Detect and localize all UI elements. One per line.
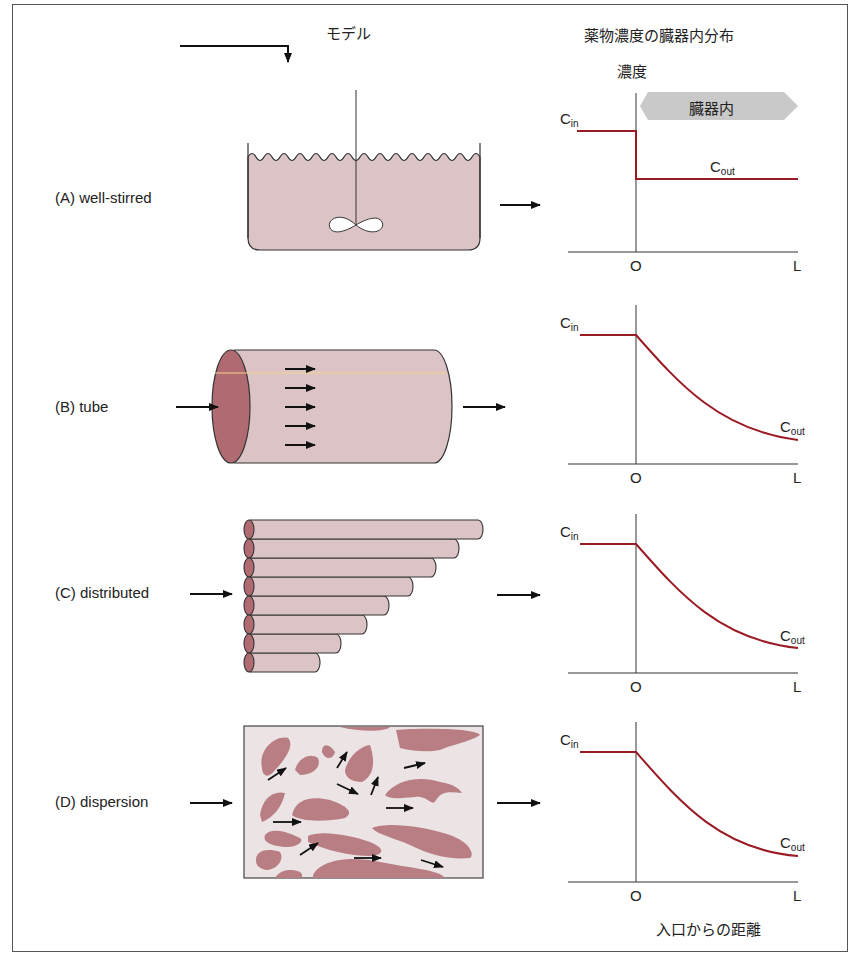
model-column-title: モデル [326,22,371,43]
organ-region-label: 臓器内 [689,97,734,118]
origin-label-b: O [630,469,642,486]
graph-a [568,92,798,252]
c-in-label-c: Cin [560,523,579,542]
end-label-a: L [793,257,801,274]
end-label-c: L [793,678,801,695]
c-in-label-d: Cin [560,731,579,750]
graph-c [568,514,798,673]
diagram-graphics [0,0,861,966]
distributed-model [190,520,540,672]
stirred-tank-model [180,46,540,250]
end-label-b: L [793,469,801,486]
c-out-label-c: Cout [780,627,805,646]
model-label-d: (D) dispersion [55,793,148,810]
origin-label-a: O [630,257,642,274]
c-out-label-d: Cout [780,834,805,853]
c-in-label-b: Cin [560,314,579,333]
graph-b [568,305,798,464]
x-axis-label: 入口からの距離 [656,918,761,939]
origin-label-d: O [630,887,642,904]
c-out-label-b: Cout [780,418,805,437]
graph-d [568,722,798,882]
model-label-b: (B) tube [55,398,108,415]
model-label-a: (A) well-stirred [55,189,152,206]
end-label-d: L [793,887,801,904]
c-in-label-a: Cin [560,110,579,129]
distribution-column-title: 薬物濃度の臓器内分布 [584,24,734,45]
model-label-c: (C) distributed [55,584,149,601]
y-axis-label: 濃度 [617,60,647,81]
dispersion-model [190,726,540,878]
origin-label-c: O [630,678,642,695]
c-out-label-a: Cout [710,158,735,177]
tube-model [176,350,505,463]
